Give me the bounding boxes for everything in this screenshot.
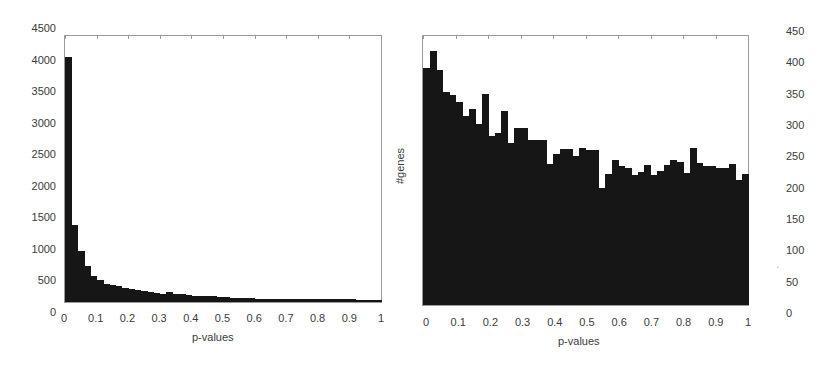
histogram-bar: [375, 300, 382, 302]
x-tick-label: 0.4: [543, 316, 567, 328]
x-tick-label: 0.8: [672, 316, 696, 328]
x-tick-label: 0.6: [242, 312, 266, 324]
y-tick-label: 3500: [12, 85, 56, 97]
y-tick-label: 4500: [12, 22, 56, 34]
y-tick-label: 450: [786, 25, 826, 37]
x-tick-label: 0.2: [478, 316, 502, 328]
x-tick-label: 0.7: [274, 312, 298, 324]
y-tick-label: 150: [786, 213, 826, 225]
x-tick-label: 0.9: [704, 316, 728, 328]
y-tick-label: 1500: [12, 211, 56, 223]
x-tick-label: 0.3: [511, 316, 535, 328]
left-plot-area: [64, 35, 382, 303]
right-x-axis-title: p-values: [558, 335, 600, 347]
scan-artifact: ˖: [776, 260, 782, 272]
y-tick-label: 400: [786, 56, 826, 68]
x-tick-label: 0.4: [179, 312, 203, 324]
y-tick-label: 1000: [12, 243, 56, 255]
x-tick-label: 0.7: [639, 316, 663, 328]
y-tick-label: 2500: [12, 148, 56, 160]
tick-mark: [748, 36, 749, 39]
right-bars: [423, 36, 748, 305]
y-tick-label: 300: [786, 119, 826, 131]
x-tick-label: 0: [414, 316, 438, 328]
y-tick-label: 4000: [12, 54, 56, 66]
y-tick-label: 350: [786, 88, 826, 100]
left-bars: [65, 36, 381, 302]
y-tick-label: 0: [786, 307, 826, 319]
y-tick-label: 2000: [12, 180, 56, 192]
y-tick-label: 100: [786, 244, 826, 256]
x-tick-label: 1: [736, 316, 760, 328]
right-y-axis-title: #genes: [394, 146, 406, 186]
x-tick-label: 0: [52, 312, 76, 324]
right-plot-area: [422, 35, 749, 306]
y-tick-label: 500: [12, 274, 56, 286]
x-tick-label: 1: [369, 312, 393, 324]
x-tick-label: 0.8: [306, 312, 330, 324]
x-tick-label: 0.3: [147, 312, 171, 324]
x-tick-label: 0.1: [84, 312, 108, 324]
y-tick-label: 0: [12, 306, 56, 318]
y-tick-label: 200: [786, 182, 826, 194]
y-tick-label: 50: [786, 276, 826, 288]
tick-mark: [381, 36, 382, 39]
histogram-bar: [742, 174, 749, 305]
left-x-axis-title: p-values: [192, 331, 234, 343]
x-tick-label: 0.9: [337, 312, 361, 324]
x-tick-label: 0.5: [211, 312, 235, 324]
y-tick-label: 3000: [12, 117, 56, 129]
y-tick-label: 250: [786, 150, 826, 162]
x-tick-label: 0.5: [575, 316, 599, 328]
x-tick-label: 0.1: [446, 316, 470, 328]
x-tick-label: 0.6: [607, 316, 631, 328]
x-tick-label: 0.2: [115, 312, 139, 324]
